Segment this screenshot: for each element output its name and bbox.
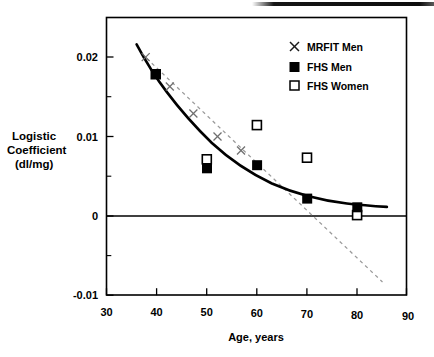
legend-label-mrfit-men: MRFIT Men xyxy=(307,41,363,53)
y-tick-label: 0.02 xyxy=(77,51,98,63)
legend-label-fhs-women: FHS Women xyxy=(307,80,369,92)
x-tick-label: 40 xyxy=(150,306,162,318)
marker-fhs-women xyxy=(202,155,211,164)
marker-fhs-men xyxy=(252,160,262,170)
legend-item-fhs-men[interactable]: FHS Men xyxy=(290,61,352,73)
plot-frame xyxy=(107,18,407,296)
y-tick-label: 0 xyxy=(92,210,98,222)
marker-fhs-men xyxy=(151,69,162,80)
legend-label-fhs-men: FHS Men xyxy=(307,61,352,73)
x-tick-label: 60 xyxy=(251,307,263,319)
x-tick-label: 70 xyxy=(301,308,313,320)
y-axis-title-line-1: Logistic xyxy=(12,130,57,142)
open-square-marker-icon xyxy=(290,81,299,90)
figure-container: 30 40 50 60 70 80 90 0.02 0.01 0 -0.01 A… xyxy=(0,0,434,357)
marker-fhs-men xyxy=(302,194,312,204)
marker-fhs-men xyxy=(202,163,212,173)
logistic-coefficient-vs-age-chart: 30 40 50 60 70 80 90 0.02 0.01 0 -0.01 A… xyxy=(0,0,434,357)
x-axis-title: Age, years xyxy=(228,331,284,343)
marker-fhs-men xyxy=(352,202,362,212)
y-tick-label: -0.01 xyxy=(73,289,98,301)
x-tick-label: 90 xyxy=(402,310,414,322)
filled-square-marker-icon xyxy=(290,62,300,72)
marker-fhs-women xyxy=(252,121,261,130)
y-axis-title-line-2: Coefficient xyxy=(7,144,67,156)
x-tick-label: 80 xyxy=(351,309,363,321)
marker-fhs-women xyxy=(303,153,312,162)
x-tick-label: 50 xyxy=(201,306,213,318)
x-tick-label: 30 xyxy=(100,306,112,318)
y-axis-title-line-3: (dl/mg) xyxy=(15,158,53,170)
y-tick-label: 0.01 xyxy=(77,131,98,143)
